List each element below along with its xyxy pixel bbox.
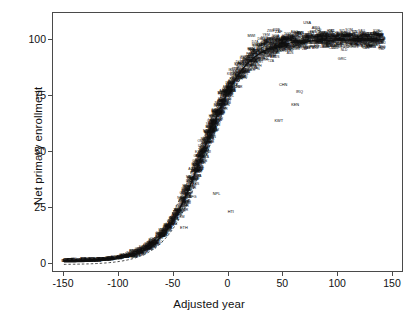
confidence-band-upper	[64, 37, 385, 259]
logistic-fit-curve	[64, 40, 385, 262]
data-point-label: MAR	[277, 49, 285, 53]
y-tick-mark	[48, 263, 52, 264]
data-point-label-grc: GRC	[338, 56, 347, 61]
x-tick-label: 50	[277, 277, 289, 289]
y-tick-label: 0	[12, 257, 46, 269]
data-point-label-chn: CHN	[279, 82, 288, 87]
data-point-label-usa: USA	[303, 20, 311, 25]
data-point-label-npl: NPL	[213, 191, 221, 196]
data-point-label: TZA	[364, 34, 371, 38]
y-tick-mark	[48, 151, 52, 152]
data-point-label: PAK	[356, 35, 363, 39]
y-axis-title: Net primary enrollment	[32, 46, 44, 246]
data-point-label: MDG	[316, 32, 324, 36]
data-point-label: FRA	[202, 155, 209, 159]
x-tick-label: -150	[52, 277, 73, 289]
data-point-label-nzl: NZL	[368, 42, 376, 47]
x-tick-mark	[282, 272, 283, 276]
data-point-label-arg: ARG	[312, 25, 320, 30]
data-point-label: CIV	[352, 30, 358, 34]
x-tick-label: -100	[107, 277, 128, 289]
data-point-label: TZA	[268, 59, 275, 63]
figure-container: GRCNPLMLISENPERSWECANHUNPHLTUNMOZBDIBOLH…	[0, 0, 418, 327]
data-point-label: TUR	[318, 45, 325, 49]
x-tick-label: 150	[383, 277, 401, 289]
confidence-band-layer	[64, 37, 385, 264]
x-tick-label: 100	[328, 277, 346, 289]
x-tick-mark	[63, 272, 64, 276]
data-point-label-zaf: ZAF	[275, 29, 283, 34]
data-point-label: ETH	[261, 58, 268, 62]
y-tick-mark	[48, 207, 52, 208]
data-point-label-hti: HTI	[228, 209, 234, 214]
x-tick-mark	[337, 272, 338, 276]
data-point-label-kwt: KWT	[274, 118, 283, 123]
data-point-label: NZL	[339, 29, 345, 33]
x-tick-label: 0	[225, 277, 231, 289]
data-point-label: SWE	[299, 44, 307, 48]
data-points-layer: GRCNPLMLISENPERSWECANHUNPHLTUNMOZBDIBOLH…	[61, 20, 386, 263]
data-point-label-ken: KEN	[291, 102, 299, 107]
data-point-label: PRT	[355, 43, 361, 47]
data-point-label: DEU	[338, 45, 346, 49]
plot-frame: GRCNPLMLISENPERSWECANHUNPHLTUNMOZBDIBOLH…	[52, 12, 403, 272]
x-axis-title: Adjusted year	[0, 298, 418, 310]
x-tick-mark	[392, 272, 393, 276]
x-tick-mark	[173, 272, 174, 276]
data-point-label-irq: IRQ	[296, 89, 303, 94]
y-tick-mark	[48, 95, 52, 96]
x-tick-mark	[228, 272, 229, 276]
data-point-label-mwi: MWI	[248, 33, 256, 38]
fit-curve-layer	[64, 40, 385, 262]
x-tick-mark	[118, 272, 119, 276]
x-tick-label: -50	[165, 277, 180, 289]
data-point-label: AGO	[291, 30, 299, 34]
data-point-label: AFG	[379, 45, 386, 49]
y-tick-mark	[48, 39, 52, 40]
data-point-label: NER	[248, 68, 256, 72]
data-point-label: OMN	[338, 35, 346, 39]
data-point-label: ISR	[281, 36, 287, 40]
data-point-label: BOL	[374, 31, 381, 35]
data-point-label: YEM	[263, 33, 270, 37]
y-tick-label: 100	[12, 33, 46, 45]
data-point-label-eth: ETH	[180, 225, 188, 230]
confidence-band-lower	[64, 42, 385, 264]
scatter-plot-canvas: GRCNPLMLISENPERSWECANHUNPHLTUNMOZBDIBOLH…	[53, 13, 402, 271]
